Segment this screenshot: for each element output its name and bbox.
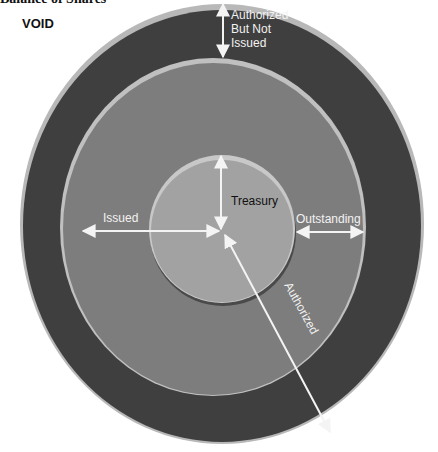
label-outstanding: Outstanding (296, 212, 361, 226)
label-authorized-not-issued-2: But Not (231, 22, 272, 36)
label-issued: Issued (103, 211, 138, 225)
shares-diagram: Authorized But Not Issued Treasury Issue… (0, 0, 438, 452)
label-treasury: Treasury (231, 194, 278, 208)
label-authorized-not-issued-3: Issued (231, 36, 266, 50)
label-authorized-not-issued-1: Authorized (231, 8, 288, 22)
